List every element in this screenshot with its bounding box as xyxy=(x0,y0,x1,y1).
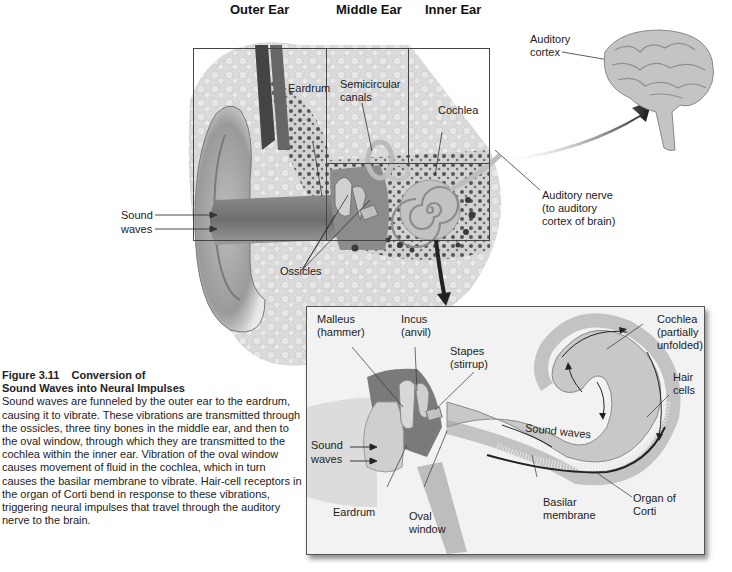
label-auditory-cortex: Auditory cortex xyxy=(530,33,570,59)
figure-caption: Figure 3.11Conversion of Sound Waves int… xyxy=(2,369,302,527)
label-ossicles: Ossicles xyxy=(280,265,322,278)
inset-label-organ-of-corti: Organ of Corti xyxy=(633,492,676,518)
label-eardrum: Eardrum xyxy=(288,82,330,95)
inset-label-hair-cells: Hair cells xyxy=(673,371,695,397)
inset-unfolded-cochlea: Malleus (hammer) Incus (anvil) Stapes (s… xyxy=(306,306,705,555)
header-outer-ear: Outer Ear xyxy=(230,2,289,17)
inset-label-stapes: Stapes (stirrup) xyxy=(450,345,488,371)
inset-label-oval-window: Oval window xyxy=(409,510,446,536)
inset-label-sound-waves: Sound waves xyxy=(311,438,343,466)
label-cochlea: Cochlea xyxy=(438,104,478,117)
inset-label-cochlea: Cochlea (partially unfolded) xyxy=(657,313,703,352)
inset-label-malleus: Malleus (hammer) xyxy=(317,313,365,339)
inset-label-eardrum: Eardrum xyxy=(333,506,375,519)
header-inner-ear: Inner Ear xyxy=(425,2,481,17)
label-auditory-nerve: Auditory nerve (to auditory cortex of br… xyxy=(542,189,615,228)
caption-title: Figure 3.11Conversion of xyxy=(2,369,302,382)
caption-title-line2: Sound Waves into Neural Impulses xyxy=(2,382,302,395)
header-middle-ear: Middle Ear xyxy=(336,2,402,17)
label-semicircular-canals: Semicircular canals xyxy=(340,78,401,104)
inset-label-basilar-membrane: Basilar membrane xyxy=(543,496,596,522)
caption-body: Sound waves are funneled by the outer ea… xyxy=(2,395,302,526)
inset-label-incus: Incus (anvil) xyxy=(401,313,431,339)
label-sound-waves: Sound waves xyxy=(121,208,153,236)
brain-illustration xyxy=(604,30,713,151)
figure-number: Figure 3.11 xyxy=(2,369,59,381)
